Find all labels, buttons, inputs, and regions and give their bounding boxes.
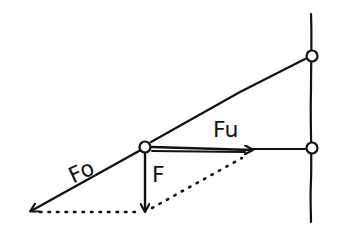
label-f: F bbox=[152, 162, 165, 187]
hinge-upper bbox=[307, 51, 318, 62]
label-fo: Fo bbox=[65, 155, 99, 188]
dotted-line-diagonal bbox=[152, 158, 242, 208]
label-fu: Fu bbox=[213, 117, 238, 142]
force-diagram: Fo Fu F bbox=[0, 0, 337, 239]
hinge-lower bbox=[307, 143, 318, 154]
fu-arrow bbox=[152, 147, 252, 150]
joint bbox=[140, 142, 151, 153]
wall-line bbox=[311, 14, 312, 222]
